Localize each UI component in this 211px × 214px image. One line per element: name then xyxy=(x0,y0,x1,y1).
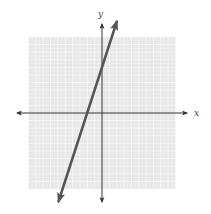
y-axis-label: y xyxy=(97,9,104,19)
coordinate-plane: x y xyxy=(0,0,211,214)
x-axis-label: x xyxy=(194,108,199,118)
